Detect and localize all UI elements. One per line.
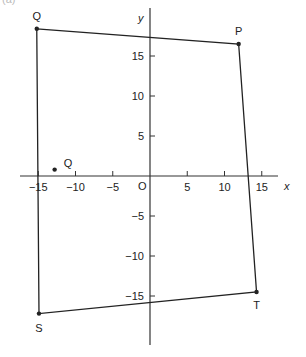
x-tick-label: −10 (66, 181, 85, 193)
point-label: P (235, 25, 242, 37)
plot-canvas: −15−10−55101515105−5−10−15Oxy QPTSQ (0, 0, 306, 357)
figure-caption: (a) (2, 0, 15, 5)
coordinate-diagram: (a) −15−10−55101515105−5−10−15Oxy QPTSQ (0, 0, 306, 357)
origin-label: O (138, 180, 147, 192)
point-label: S (35, 322, 42, 334)
x-axis-label: x (283, 180, 290, 192)
point-p (236, 42, 240, 46)
quadrilateral-outline (37, 29, 257, 314)
y-tick-label: 15 (132, 50, 144, 62)
x-tick-label: 10 (218, 181, 230, 193)
x-tick-label: 15 (256, 181, 268, 193)
y-tick-label: −10 (125, 250, 144, 262)
y-tick-label: 10 (132, 90, 144, 102)
point-label: Q (64, 157, 73, 169)
axes: −15−10−55101515105−5−10−15Oxy (20, 8, 290, 345)
point-label: Q (32, 10, 41, 22)
quadrilateral (37, 29, 257, 314)
y-tick-label: −15 (125, 290, 144, 302)
x-tick-label: 5 (184, 181, 190, 193)
y-axis-label: y (137, 12, 145, 24)
points: QPTSQ (32, 10, 260, 334)
x-tick-label: −5 (106, 181, 119, 193)
point-s (37, 311, 41, 315)
point-label: T (253, 299, 260, 311)
point-t (254, 290, 258, 294)
y-tick-label: 5 (138, 130, 144, 142)
y-tick-label: −5 (131, 210, 144, 222)
point-q-mid (52, 167, 56, 171)
point-q-top (35, 27, 39, 31)
